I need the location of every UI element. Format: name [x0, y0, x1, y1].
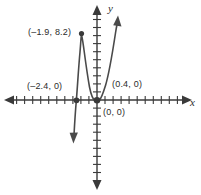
point-vertex-dot	[79, 31, 84, 36]
point-label-right-root: (0.4, 0)	[112, 79, 142, 89]
point-label-vertex: (–1.9, 8.2)	[28, 27, 71, 37]
curve-arrow-up-right	[113, 16, 121, 27]
y-axis-arrow-down	[93, 180, 102, 190]
curve-arrow-down-left	[70, 132, 78, 143]
curve-path	[74, 24, 117, 136]
point-label-origin: (0, 0)	[103, 107, 125, 117]
x-axis-arrow-left	[4, 96, 14, 105]
point-origin-dot	[94, 97, 101, 104]
x-axis-label: x	[190, 96, 195, 108]
point-label-left-root: (–2.4, 0)	[27, 81, 62, 91]
coordinate-graph-figure: (–1.9, 8.2) (–2.4, 0) (0.4, 0) (0, 0) y …	[0, 0, 201, 195]
y-axis-arrow-up	[93, 5, 102, 15]
y-axis-label: y	[108, 2, 113, 14]
point-left-root-dot	[74, 97, 80, 103]
